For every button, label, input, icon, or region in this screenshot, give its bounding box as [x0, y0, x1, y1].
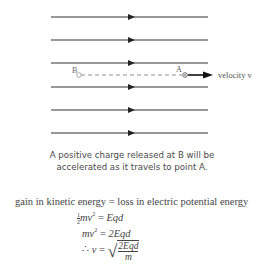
- point-b-charge: B: [72, 66, 81, 77]
- velocity-label: velocity v: [218, 70, 253, 80]
- velocity-arrow: [188, 72, 213, 79]
- point-b-label: B: [72, 66, 77, 75]
- equation-kinetic-energy: 12mv2 = Eqd: [77, 211, 123, 225]
- point-a-label: A: [176, 65, 182, 74]
- caption: A positive charge released at B will be …: [0, 150, 264, 173]
- radical-sign-icon: √: [107, 242, 117, 260]
- electric-field-diagram: B A velocity v: [0, 0, 264, 145]
- energy-equation-statement: gain in kinetic energy = loss in electri…: [15, 196, 248, 207]
- point-a-charge: A: [176, 65, 187, 77]
- caption-line-1: A positive charge released at B will be: [0, 150, 264, 162]
- square-root: √2Eqdm: [107, 240, 139, 262]
- equation-mv-squared: mv2 = 2Eqd: [82, 227, 131, 239]
- equation-velocity: ∴ v = √2Eqdm: [82, 240, 139, 262]
- caption-line-2: accelerated as it travels to point A.: [0, 162, 264, 174]
